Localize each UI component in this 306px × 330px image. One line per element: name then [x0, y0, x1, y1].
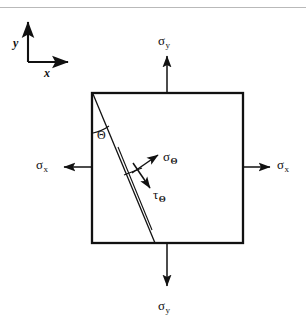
y-axis-label: y [13, 37, 18, 49]
tau-theta-label: τΘ [153, 188, 165, 201]
tau-theta-subscript: Θ [159, 194, 166, 204]
sigma-y-top-label: σy [158, 34, 170, 47]
sigma-x-right-symbol: σ [277, 157, 284, 172]
sigma-y-bottom-subscript: y [166, 305, 171, 315]
x-axis-label: x [44, 67, 50, 79]
sigma-y-bottom-label: σy [158, 299, 170, 312]
sigma-theta-arrow [132, 155, 158, 173]
sigma-y-top-subscript: y [166, 40, 171, 50]
inclined-parallel-line [118, 147, 152, 230]
sigma-x-left-symbol: σ [36, 157, 43, 172]
sigma-theta-symbol: σ [163, 149, 170, 164]
sigma-y-bottom-symbol: σ [158, 298, 165, 313]
coordinate-axes [28, 22, 68, 62]
figure-canvas: y x σy σy σx σx σΘ τΘ Θ [0, 0, 306, 330]
sigma-x-left-label: σx [36, 158, 48, 171]
sigma-x-right-subscript: x [285, 164, 290, 174]
square-element [92, 93, 243, 243]
tau-theta-symbol: τ [153, 187, 158, 202]
sigma-theta-label: σΘ [163, 150, 177, 163]
sigma-x-left-subscript: x [44, 164, 49, 174]
sigma-y-top-symbol: σ [158, 33, 165, 48]
inclined-cut-line [93, 94, 155, 243]
theta-angle-label: Θ [97, 129, 106, 141]
sigma-theta-subscript: Θ [171, 156, 178, 166]
sigma-x-right-label: σx [277, 158, 289, 171]
